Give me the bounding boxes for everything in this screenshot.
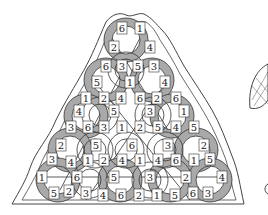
number-label: 6	[129, 140, 135, 151]
number-label: 3	[151, 61, 157, 72]
number-label: 5	[51, 188, 57, 199]
number-label: 3	[101, 122, 107, 133]
number-label: 4	[219, 172, 225, 183]
number-label: 5	[111, 172, 117, 183]
number-label: 2	[136, 190, 142, 201]
outline-shape-inner	[22, 21, 236, 200]
number-label: 4	[155, 155, 161, 166]
number-label: 1	[154, 190, 160, 201]
number-label: 5	[135, 61, 141, 72]
side-object-leaf-icon	[250, 64, 268, 109]
number-label: 6	[173, 155, 179, 166]
number-label: 1	[127, 77, 133, 88]
number-label: 2	[154, 93, 160, 104]
number-label: 1	[85, 155, 91, 166]
number-label: 5	[94, 77, 100, 88]
number-label: 3	[165, 140, 171, 151]
number-label: 1	[119, 122, 125, 133]
number-label: 2	[101, 155, 107, 166]
number-label: 3	[147, 172, 153, 183]
number-label: 2	[183, 172, 189, 183]
number-label: 1	[39, 172, 45, 183]
number-label: 6	[118, 190, 124, 201]
number-label: 3	[68, 122, 74, 133]
number-label: 4	[173, 122, 179, 133]
number-label: 3	[119, 61, 125, 72]
number-label: 5	[207, 154, 213, 165]
number-label: 2	[66, 186, 72, 197]
number-label: 5	[172, 190, 178, 201]
number-label: 1	[191, 155, 197, 166]
number-label: 2	[137, 122, 143, 133]
number-label: 1	[137, 155, 143, 166]
number-label: 3	[147, 106, 153, 117]
number-label: 6	[137, 93, 143, 104]
number-label: 2	[201, 140, 207, 151]
number-label: 6	[190, 188, 196, 199]
number-label: 6	[103, 61, 109, 72]
number-label: 2	[111, 42, 117, 53]
number-label: 3	[83, 188, 89, 199]
number-label: 1	[83, 93, 89, 104]
number-label: 4	[119, 155, 125, 166]
number-label: 5	[111, 106, 117, 117]
side-object-fragment	[265, 184, 268, 194]
number-label: 4	[100, 190, 106, 201]
number-label: 3	[49, 154, 55, 165]
number-label: 1	[181, 106, 187, 117]
number-label: 4	[147, 42, 153, 53]
number-label: 5	[155, 122, 161, 133]
number-label: 5	[191, 122, 197, 133]
number-label: 5	[93, 140, 99, 151]
number-label: 1	[137, 23, 143, 34]
number-label: 6	[74, 172, 80, 183]
number-label: 4	[76, 106, 82, 117]
puzzle-diagram: 6124635351412462645313631254525632341241…	[0, 0, 268, 215]
number-label: 6	[119, 23, 125, 34]
number-label: 2	[101, 93, 107, 104]
number-label: 6	[173, 93, 179, 104]
number-label: 4	[118, 93, 124, 104]
number-label: 4	[162, 77, 168, 88]
number-label: 3	[205, 188, 211, 199]
number-label: 6	[85, 122, 91, 133]
number-label: 4	[68, 157, 74, 168]
number-label: 2	[58, 140, 64, 151]
